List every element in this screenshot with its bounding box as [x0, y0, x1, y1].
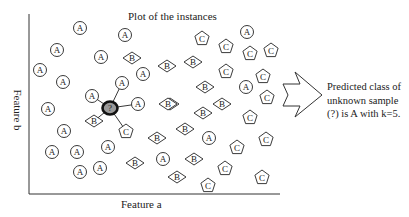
class-b-diamond-icon: B: [196, 81, 214, 93]
svg-text:B: B: [129, 53, 135, 63]
svg-text:B: B: [164, 61, 170, 71]
svg-text:C: C: [259, 173, 265, 183]
class-a-circle-icon: A: [94, 162, 107, 175]
class-a-circle-icon: A: [240, 81, 253, 94]
axes: [29, 14, 280, 194]
svg-text:B: B: [202, 82, 208, 92]
x-axis-label: Feature a: [121, 198, 162, 210]
svg-text:B: B: [219, 99, 225, 109]
svg-text:A: A: [135, 99, 142, 109]
svg-text:A: A: [49, 147, 56, 157]
class-a-circle-icon: A: [157, 153, 170, 166]
knn-diagram: AAAAAAAAAAAAAAAAAAAAABBBBBBBBBBBBBBCCCCC…: [0, 0, 409, 217]
class-c-pentagon-icon: C: [201, 178, 215, 192]
class-a-circle-icon: A: [58, 125, 71, 138]
svg-text:A: A: [105, 142, 112, 152]
class-a-circle-icon: A: [203, 132, 216, 145]
svg-text:B: B: [182, 124, 188, 134]
svg-text:A: A: [243, 82, 250, 92]
class-a-circle-icon: A: [51, 44, 64, 57]
svg-text:C: C: [222, 164, 228, 174]
class-c-pentagon-icon: C: [219, 39, 233, 53]
class-c-pentagon-icon: C: [218, 161, 232, 175]
class-b-diamond-icon: B: [213, 98, 231, 110]
svg-text:B: B: [200, 108, 206, 118]
svg-text:A: A: [244, 27, 251, 37]
class-c-pentagon-icon: C: [219, 64, 233, 78]
class-b-diamond-icon: B: [148, 132, 166, 144]
class-a-circle-icon: A: [241, 26, 254, 39]
svg-text:C: C: [223, 42, 229, 52]
class-b-diamond-icon: B: [158, 60, 176, 72]
svg-text:C: C: [260, 72, 266, 82]
svg-text:C: C: [263, 135, 269, 145]
svg-text:A: A: [98, 52, 105, 62]
class-c-pentagon-icon: C: [243, 46, 257, 60]
class-a-circle-icon: A: [46, 146, 59, 159]
unknown-sample: ?: [103, 102, 118, 115]
class-b-diamond-icon: B: [126, 157, 144, 169]
class-c-pentagon-icon: C: [119, 124, 133, 138]
svg-text:A: A: [60, 77, 67, 87]
result-line-2: unknown sample: [327, 94, 409, 108]
svg-text:A: A: [54, 45, 61, 55]
class-a-circle-icon: A: [57, 76, 70, 89]
class-a-circle-icon: A: [71, 146, 84, 159]
svg-text:C: C: [234, 143, 240, 153]
class-b-diamond-icon: B: [123, 52, 141, 64]
class-c-pentagon-icon: C: [230, 140, 244, 154]
result-line-1: Predicted class of: [327, 80, 409, 94]
class-a-circle-icon: A: [95, 51, 108, 64]
arrow-icon: [283, 72, 322, 117]
svg-text:B: B: [154, 133, 160, 143]
class-c-pentagon-icon: C: [255, 170, 269, 184]
class-b-diamond-icon: B: [194, 107, 212, 119]
result-line-3: (?) is A with k=5.: [327, 107, 409, 121]
class-c-pentagon-icon: C: [260, 90, 274, 104]
svg-text:A: A: [74, 147, 81, 157]
svg-text:C: C: [247, 113, 253, 123]
svg-text:B: B: [132, 158, 138, 168]
class-c-pentagon-icon: C: [264, 43, 278, 57]
svg-text:A: A: [77, 23, 84, 33]
class-b-diamond-icon: B: [85, 115, 103, 127]
svg-text:C: C: [264, 93, 270, 103]
class-b-diamond-icon: B: [185, 153, 203, 165]
svg-text:B: B: [165, 99, 171, 109]
prediction-result: Predicted class of unknown sample (?) is…: [327, 80, 409, 121]
class-a-circle-icon: A: [102, 141, 115, 154]
class-a-circle-icon: A: [119, 29, 132, 42]
class-c-pentagon-icon: C: [195, 31, 209, 45]
svg-text:A: A: [206, 133, 213, 143]
class-b-diamond-icon: B: [184, 56, 202, 68]
svg-text:A: A: [61, 126, 68, 136]
svg-text:A: A: [77, 167, 84, 177]
svg-text:A: A: [45, 104, 52, 114]
svg-text:C: C: [223, 67, 229, 77]
svg-text:B: B: [174, 172, 180, 182]
svg-text:?: ?: [108, 103, 112, 113]
class-c-pentagon-icon: C: [259, 132, 273, 146]
svg-text:C: C: [123, 127, 129, 137]
svg-text:A: A: [160, 154, 167, 164]
class-a-circle-icon: A: [116, 77, 129, 90]
svg-text:A: A: [122, 30, 129, 40]
class-a-circle-icon: A: [74, 166, 87, 179]
svg-text:A: A: [140, 69, 147, 79]
class-b-diamond-icon: B: [159, 98, 177, 110]
svg-text:C: C: [205, 181, 211, 191]
class-b-diamond-icon: B: [168, 171, 186, 183]
svg-text:C: C: [268, 46, 274, 56]
svg-text:B: B: [191, 154, 197, 164]
y-axis-label: Feature b: [12, 80, 24, 140]
class-c-pentagon-icon: C: [243, 110, 257, 124]
svg-text:A: A: [119, 78, 126, 88]
class-a-circle-icon: A: [42, 103, 55, 116]
svg-text:B: B: [190, 57, 196, 67]
svg-text:A: A: [97, 163, 104, 173]
svg-text:A: A: [37, 65, 44, 75]
svg-text:A: A: [89, 91, 96, 101]
class-c-pentagon-icon: C: [256, 69, 270, 83]
plot-title: Plot of the instances: [128, 10, 217, 22]
instance-points: AAAAAAAAAAAAAAAAAAAAABBBBBBBBBBBBBBCCCCC…: [34, 22, 279, 192]
